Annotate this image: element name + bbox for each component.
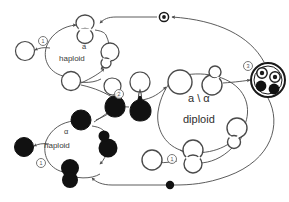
haploid-alpha-gamete-left (105, 96, 125, 117)
step-marker-1-a-budding: 1 (38, 36, 48, 46)
haploid-alpha-gamete-shmoo-tip (138, 96, 143, 105)
spore-solid-lower-left (256, 81, 267, 92)
diploid-budding-cell-top (202, 66, 222, 95)
haploid-alpha-dividing-pair (61, 159, 79, 188)
haploid-a-ploidy-label: haploid (59, 54, 85, 63)
haploid-alpha-ploidy-label: haploid (44, 141, 70, 150)
haploid-alpha-mating-type-label: α (64, 127, 68, 136)
step-marker-2-mating: 2 (114, 89, 124, 99)
diagram-canvas (0, 0, 289, 202)
arrow-a-cycle-left (45, 25, 76, 76)
spore-solid-lower-right (269, 84, 280, 95)
haploid-alpha-cell (15, 138, 34, 157)
arrow-a-top-to-bud (95, 30, 106, 35)
diploid-genotype-label: a \ α (188, 92, 210, 104)
zygote-cell (168, 70, 192, 94)
ascus-with-four-spores (251, 63, 285, 97)
diploid-budding-cell-right (227, 118, 247, 149)
step-marker-1-diploid-budding: 1 (167, 154, 177, 164)
cell-shapes (15, 15, 286, 188)
haploid-alpha-dividing-cell (71, 110, 91, 130)
diploid-ploidy-label: diploid (183, 113, 215, 125)
arrow-alpha-top-to-bud (92, 126, 104, 131)
diploid-budding-cell (183, 140, 203, 173)
haploid-a-cell (16, 42, 35, 61)
arrow-a-to-gamete-a (81, 69, 104, 83)
step-marker-1-alpha-budding: 1 (36, 158, 46, 168)
haploid-alpha-budding-cell (99, 131, 118, 158)
haploid-a-daughter-cell (62, 72, 81, 91)
diploid-daughter-cell (142, 150, 162, 170)
arrow-a-release-daughter (35, 48, 50, 50)
haploid-a-dividing-cell (76, 15, 94, 44)
arrow-ascus-to-top-spore (172, 17, 264, 62)
life-cycle-diagram: a haploid α haploid a \ α diploid 1 2 3 … (0, 0, 289, 202)
arrow-top-spore-to-a-cycle (100, 17, 157, 23)
haploid-a-mating-type-label: a (82, 42, 86, 51)
arrow-bottom-spore-to-alpha-cycle (92, 178, 166, 185)
haploid-a-budding-cell (101, 43, 119, 68)
alpha-spore-marker (159, 12, 168, 21)
a-spore-marker (166, 181, 174, 189)
step-marker-3-sporulation: 3 (243, 61, 253, 71)
